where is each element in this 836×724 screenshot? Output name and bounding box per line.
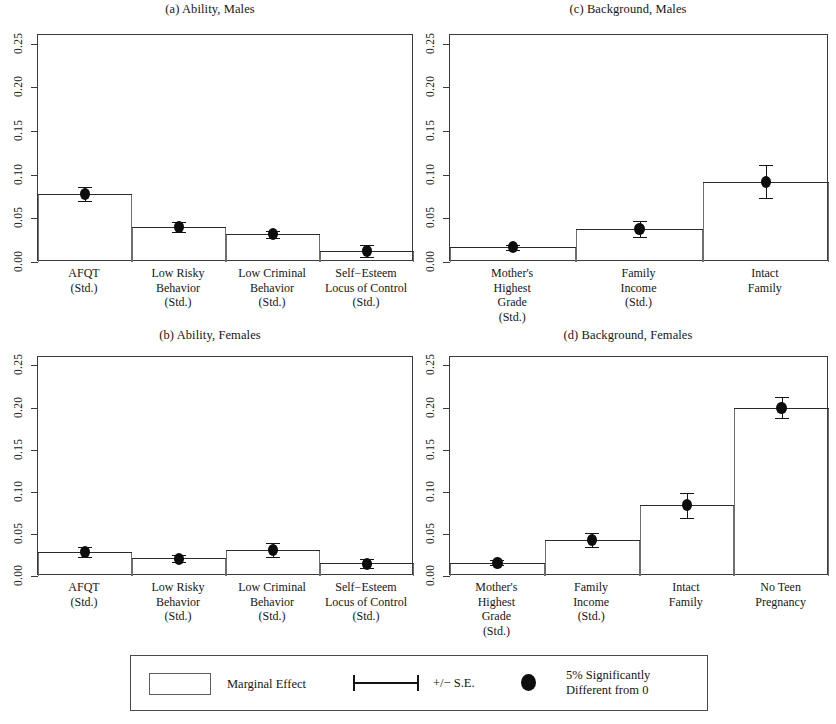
error-bar-cap-lower	[680, 518, 694, 519]
error-bar-cap-lower	[633, 237, 647, 238]
legend-item-significance: 5% Significantly Different from 0	[521, 668, 650, 697]
error-bar-cap-lower	[266, 557, 280, 558]
y-axis-tick	[443, 131, 450, 132]
y-axis-tick-label: 0.10	[424, 473, 440, 509]
panel-c-title: (c) Background, Males	[420, 2, 836, 17]
significance-dot-icon	[521, 674, 536, 691]
y-axis-tick-label: 0.10	[12, 473, 28, 509]
y-axis-tick	[31, 492, 38, 493]
y-axis-tick	[443, 534, 450, 535]
significance-marker	[80, 546, 90, 558]
y-axis-tick	[443, 408, 450, 409]
significance-marker	[362, 245, 372, 257]
y-axis-tick	[31, 534, 38, 535]
y-axis-tick	[31, 262, 38, 263]
y-axis-tick-label: 0.10	[12, 156, 28, 192]
y-axis-tick-label: 0.05	[424, 515, 440, 551]
error-bar-cap-lower	[759, 198, 773, 199]
y-axis-tick	[31, 87, 38, 88]
y-axis-tick	[443, 87, 450, 88]
error-bar-cap-lower	[585, 547, 599, 548]
significance-marker	[174, 553, 184, 565]
y-axis-tick-label: 0.25	[424, 346, 440, 382]
y-axis-tick	[443, 218, 450, 219]
y-axis-tick	[443, 492, 450, 493]
y-axis-tick-label: 0.20	[12, 68, 28, 104]
y-axis-tick-label: 0.05	[424, 199, 440, 235]
y-axis-tick	[31, 408, 38, 409]
error-bar-cap-lower	[775, 418, 789, 419]
x-axis-category-label: Intact Family	[684, 266, 836, 295]
figure-four-panel-marginal-effects: (a) Ability, Males 0.000.050.100.150.200…	[0, 0, 836, 724]
y-axis-tick	[443, 262, 450, 263]
y-axis-tick-label: 0.15	[424, 112, 440, 148]
panel-a-ability-males: (a) Ability, Males 0.000.050.100.150.200…	[0, 2, 420, 332]
y-axis-tick	[31, 576, 38, 577]
figure-legend: Marginal Effect +/− S.E. 5% Significantl…	[130, 655, 708, 711]
y-axis-tick-label: 0.25	[424, 25, 440, 61]
panel-d-plot-area	[449, 356, 828, 575]
significance-marker	[776, 402, 786, 414]
significance-marker	[634, 223, 644, 235]
error-bar-cap-upper	[680, 493, 694, 494]
legend-label-significance: 5% Significantly Different from 0	[566, 668, 650, 697]
y-axis-tick-label: 0.15	[424, 431, 440, 467]
legend-item-marginal-effect: Marginal Effect	[149, 673, 306, 695]
y-axis-tick-label: 0.05	[12, 515, 28, 551]
significance-marker	[761, 176, 771, 188]
panel-c-background-males: (c) Background, Males 0.000.050.100.150.…	[420, 2, 836, 332]
y-axis-tick	[31, 218, 38, 219]
panel-d-title: (d) Background, Females	[420, 328, 836, 343]
y-axis-tick	[443, 365, 450, 366]
y-axis-tick	[443, 44, 450, 45]
y-axis-tick	[31, 175, 38, 176]
legend-label-standard-error: +/− S.E.	[433, 676, 475, 691]
y-axis-tick	[31, 44, 38, 45]
panel-a-plot-area	[37, 34, 413, 261]
significance-marker	[362, 558, 372, 570]
y-axis-tick-label: 0.15	[12, 431, 28, 467]
panel-c-plot-area	[449, 34, 828, 261]
panel-d-background-females: (d) Background, Females 0.000.050.100.15…	[420, 328, 836, 648]
bar	[38, 194, 132, 262]
x-axis-category-label: No Teen Pregnancy	[715, 580, 836, 609]
error-bar-cap-lower	[360, 257, 374, 258]
bar	[734, 408, 829, 576]
y-axis-tick	[31, 450, 38, 451]
y-axis-tick-label: 0.25	[12, 25, 28, 61]
panel-b-plot-area	[37, 356, 413, 575]
legend-item-standard-error: +/− S.E.	[353, 675, 475, 691]
significance-marker	[492, 557, 502, 569]
legend-label-marginal-effect: Marginal Effect	[227, 677, 306, 692]
marginal-effect-swatch	[149, 673, 211, 695]
error-bar-cap-upper	[633, 221, 647, 222]
y-axis-tick	[31, 131, 38, 132]
error-bar-cap-upper	[775, 397, 789, 398]
panel-b-title: (b) Ability, Females	[0, 328, 420, 343]
y-axis-tick	[443, 450, 450, 451]
y-axis-tick-label: 0.20	[424, 389, 440, 425]
y-axis-tick-label: 0.05	[12, 199, 28, 235]
y-axis-tick-label: 0.10	[424, 156, 440, 192]
error-bar-icon	[353, 675, 419, 691]
x-axis-category-label: Self−Esteem Locus of Control (Std.)	[301, 580, 431, 624]
y-axis-tick	[443, 175, 450, 176]
y-axis-tick	[31, 365, 38, 366]
y-axis-tick-label: 0.25	[12, 346, 28, 382]
x-axis-category-label: Self−Esteem Locus of Control (Std.)	[301, 266, 431, 310]
error-bar-cap-upper	[759, 165, 773, 166]
error-bar-cap-lower	[78, 201, 92, 202]
y-axis-tick	[443, 576, 450, 577]
panel-b-ability-females: (b) Ability, Females 0.000.050.100.150.2…	[0, 328, 420, 648]
y-axis-tick-label: 0.20	[424, 68, 440, 104]
panel-a-title: (a) Ability, Males	[0, 2, 420, 17]
y-axis-tick-label: 0.20	[12, 389, 28, 425]
y-axis-tick-label: 0.15	[12, 112, 28, 148]
